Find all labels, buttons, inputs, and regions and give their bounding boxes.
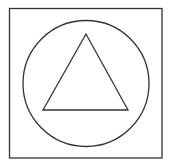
diagram-canvas (0, 0, 174, 167)
outer-square (10, 9, 163, 159)
inscribed-circle (23, 21, 149, 147)
inner-triangle (43, 34, 128, 110)
